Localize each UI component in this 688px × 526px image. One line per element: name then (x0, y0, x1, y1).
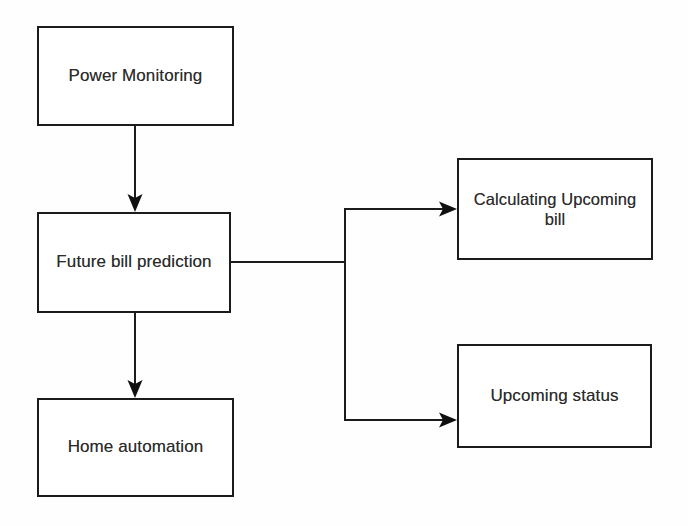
node-future-bill-prediction: Future bill prediction (37, 212, 231, 313)
node-calculating-upcoming-bill-label: Calculating Upcoming bill (470, 189, 641, 229)
node-upcoming-status: Upcoming status (457, 344, 652, 448)
node-calculating-upcoming-bill: Calculating Upcoming bill (457, 158, 653, 260)
diagram-canvas: Power Monitoring Future bill prediction … (0, 0, 688, 526)
edge-power-monitoring-to-future-bill-prediction (128, 126, 143, 212)
edge-future-bill-prediction-to-calculating-upcoming-bill (231, 202, 457, 263)
node-future-bill-prediction-label: Future bill prediction (52, 252, 215, 273)
node-home-automation-label: Home automation (64, 437, 208, 458)
edge-future-bill-prediction-to-upcoming-status (345, 262, 457, 428)
node-power-monitoring: Power Monitoring (37, 26, 234, 126)
node-home-automation: Home automation (37, 398, 234, 497)
node-upcoming-status-label: Upcoming status (486, 386, 622, 407)
node-power-monitoring-label: Power Monitoring (65, 66, 207, 87)
edge-future-bill-prediction-to-home-automation (128, 313, 143, 398)
